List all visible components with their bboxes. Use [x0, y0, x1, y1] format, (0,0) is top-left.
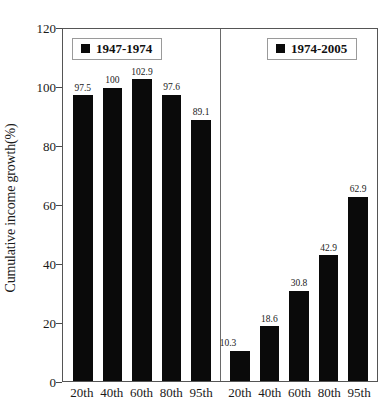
- y-axis-tick-mark: [56, 264, 62, 265]
- bar-slot: 18.6: [255, 29, 285, 381]
- bar-value-label: 30.8: [291, 279, 308, 289]
- bar: 10.3: [230, 351, 250, 381]
- x-axis-group-right: 20th40th60th80th95th: [220, 386, 378, 412]
- bar: 89.1: [191, 120, 211, 381]
- bar: 42.9: [319, 255, 339, 381]
- legend-swatch-icon: [81, 44, 90, 53]
- y-axis-tick-label: 120: [12, 22, 56, 35]
- legend-1947-1974: 1947-1974: [72, 38, 162, 60]
- y-axis-tick-label: 100: [12, 81, 56, 94]
- y-axis-tick-mark: [56, 28, 62, 29]
- bar-group-1974-2005: 10.318.630.842.962.9: [220, 29, 377, 381]
- bar: 18.6: [260, 326, 280, 381]
- y-axis-tick-mark: [56, 205, 62, 206]
- bar-value-label: 42.9: [320, 244, 337, 254]
- x-axis-tick-label: 40th: [255, 386, 285, 412]
- bar-group-1947-1974: 97.5100102.997.689.1: [63, 29, 220, 381]
- x-axis-tick-labels: 20th40th60th80th95th 20th40th60th80th95t…: [62, 386, 378, 412]
- bar-value-label: 97.6: [163, 83, 180, 93]
- bar: 100: [103, 88, 123, 381]
- x-axis-tick-label: 80th: [314, 386, 344, 412]
- bar-slot: 10.3: [225, 29, 255, 381]
- x-axis-tick-label: 60th: [285, 386, 315, 412]
- bar-value-label: 62.9: [350, 185, 367, 195]
- x-axis-tick-label: 95th: [186, 386, 216, 412]
- bar-slot: 97.5: [68, 29, 98, 381]
- bar-slot: 30.8: [284, 29, 314, 381]
- x-axis-tick-label: 60th: [127, 386, 157, 412]
- bar: 62.9: [348, 197, 368, 382]
- legend-label: 1974-2005: [291, 42, 347, 55]
- x-axis-tick-label: 20th: [225, 386, 255, 412]
- y-axis-tick-label: 20: [12, 317, 56, 330]
- plot-area: 97.5100102.997.689.1 10.318.630.842.962.…: [62, 28, 378, 382]
- bar-slot: 89.1: [186, 29, 216, 381]
- legend-1974-2005: 1974-2005: [267, 38, 357, 60]
- bar-value-label: 97.5: [74, 84, 91, 94]
- x-axis-group-left: 20th40th60th80th95th: [62, 386, 220, 412]
- bar-value-label: 89.1: [193, 108, 210, 118]
- bar-value-label: 18.6: [261, 315, 278, 325]
- bar-value-label: 100: [105, 76, 119, 86]
- x-axis-tick-label: 20th: [67, 386, 97, 412]
- bar: 97.6: [162, 95, 182, 381]
- bar-slot: 102.9: [127, 29, 157, 381]
- y-axis-tick-label: 60: [12, 199, 56, 212]
- y-axis-tick-labels: 020406080100120: [12, 0, 56, 416]
- bar-slot: 97.6: [157, 29, 187, 381]
- bar: 102.9: [132, 79, 152, 381]
- y-axis-tick-mark: [56, 146, 62, 147]
- y-axis-tick-label: 80: [12, 140, 56, 153]
- x-axis-tick-label: 80th: [156, 386, 186, 412]
- y-axis-tick-mark: [56, 323, 62, 324]
- bar: 97.5: [73, 95, 93, 381]
- y-axis-tick-label: 0: [12, 376, 56, 389]
- bar: 30.8: [289, 291, 309, 381]
- legend-label: 1947-1974: [96, 42, 152, 55]
- y-axis-tick-label: 40: [12, 258, 56, 271]
- y-axis-tick-mark: [56, 382, 62, 383]
- x-axis-tick-label: 40th: [97, 386, 127, 412]
- bar-value-label: 10.3: [220, 339, 237, 349]
- bar-chart-figure: Cumulative income growth(%) 020406080100…: [0, 0, 392, 416]
- bar-slot: 100: [98, 29, 128, 381]
- y-axis-tick-mark: [56, 87, 62, 88]
- bar-slot: 42.9: [314, 29, 344, 381]
- x-axis-tick-label: 95th: [344, 386, 374, 412]
- legend-swatch-icon: [276, 44, 285, 53]
- bar-value-label: 102.9: [131, 68, 152, 78]
- bar-slot: 62.9: [343, 29, 373, 381]
